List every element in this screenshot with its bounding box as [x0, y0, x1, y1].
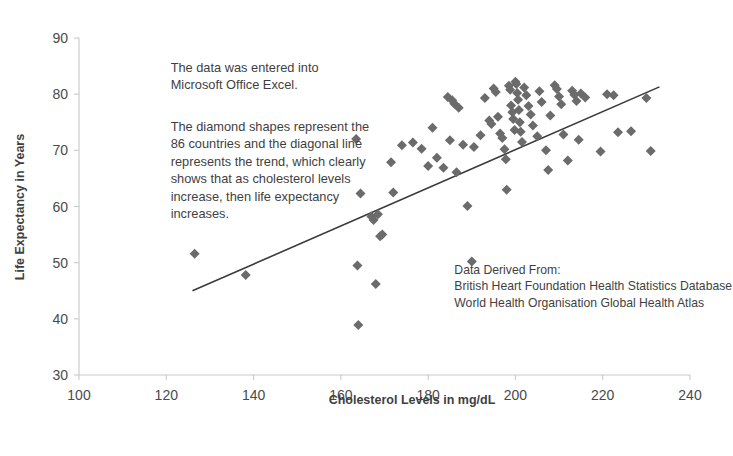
y-tick-label: 30: [52, 367, 68, 383]
source-note-line: Data Derived From:: [454, 263, 560, 277]
x-tick-label: 240: [678, 387, 702, 403]
data-point-diamond: [543, 165, 553, 175]
data-point-diamond: [355, 189, 365, 199]
data-point-diamond: [574, 135, 584, 145]
data-point-diamond: [352, 260, 362, 270]
data-point-diamond: [541, 145, 551, 155]
data-point-diamond: [528, 121, 538, 131]
scatter-chart-figure: 30405060708090100120140160180200220240 T…: [0, 0, 733, 456]
x-tick-label: 200: [504, 387, 528, 403]
data-point-diamond: [563, 155, 573, 165]
y-tick-label: 40: [52, 311, 68, 327]
chart-canvas: 30405060708090100120140160180200220240 T…: [0, 0, 733, 456]
data-point-diamond: [537, 97, 547, 107]
data-point-diamond: [476, 130, 486, 140]
description-note-line: increase, then life expectancy: [171, 189, 340, 204]
axis-layer: [74, 38, 690, 380]
data-point-diamond: [524, 101, 534, 111]
x-tick-label: 220: [591, 387, 615, 403]
data-point-diamond: [386, 157, 396, 167]
description-note-line: The diamond shapes represent the: [171, 119, 369, 134]
source-note-line: British Heart Foundation Health Statisti…: [454, 279, 732, 293]
y-tick-label: 60: [52, 199, 68, 215]
data-point-diamond: [241, 270, 251, 280]
data-point-diamond: [423, 161, 433, 171]
data-point-diamond: [502, 185, 512, 195]
data-point-diamond: [480, 93, 490, 103]
data-point-diamond: [609, 90, 619, 100]
y-axis-label: Life Expectancy in Years: [13, 134, 27, 280]
data-point-diamond: [534, 86, 544, 96]
description-note-line: 86 countries and the diagonal line: [171, 136, 362, 151]
data-point-diamond: [397, 140, 407, 150]
data-point-diamond: [646, 146, 656, 156]
data-point-diamond: [438, 163, 448, 173]
data-point-diamond: [513, 95, 523, 105]
method-note-line: Microsoft Office Excel.: [171, 77, 298, 92]
data-point-diamond: [432, 153, 442, 163]
data-point-diamond: [458, 140, 468, 150]
x-tick-label: 140: [242, 387, 266, 403]
y-tick-label: 90: [52, 30, 68, 46]
data-point-diamond: [417, 144, 427, 154]
data-point-diamond: [469, 142, 479, 152]
data-point-diamond: [554, 91, 564, 101]
data-point-diamond: [452, 167, 462, 177]
data-point-diamond: [493, 112, 503, 122]
x-tick-label: 120: [155, 387, 179, 403]
data-point-diamond: [371, 279, 381, 289]
y-tick-label: 70: [52, 142, 68, 158]
data-point-diamond: [613, 127, 623, 137]
data-point-diamond: [596, 146, 606, 156]
data-point-diamond: [462, 201, 472, 211]
data-point-diamond: [428, 123, 438, 133]
data-point-diamond: [388, 187, 398, 197]
data-point-diamond: [526, 109, 536, 119]
data-point-diamond: [556, 99, 566, 109]
x-axis-label: Cholesterol Levels in mg/dL: [329, 393, 496, 407]
x-tick-label: 100: [67, 387, 91, 403]
method-note-line: The data was entered into: [171, 60, 319, 75]
source-note-line: World Health Organisation Global Health …: [454, 296, 704, 310]
y-tick-label: 80: [52, 86, 68, 102]
description-note-line: increases.: [171, 206, 229, 221]
description-note-line: represents the trend, which clearly: [171, 154, 366, 169]
data-point-diamond: [408, 137, 418, 147]
data-point-diamond: [521, 90, 531, 100]
data-point-diamond: [190, 249, 200, 259]
data-point-diamond: [545, 111, 555, 121]
data-point-diamond: [445, 135, 455, 145]
data-point-diamond: [532, 131, 542, 141]
data-point-diamond: [626, 126, 636, 136]
data-point-diamond: [353, 320, 363, 330]
description-note-line: shows that as cholesterol levels: [171, 171, 351, 186]
y-tick-label: 50: [52, 255, 68, 271]
